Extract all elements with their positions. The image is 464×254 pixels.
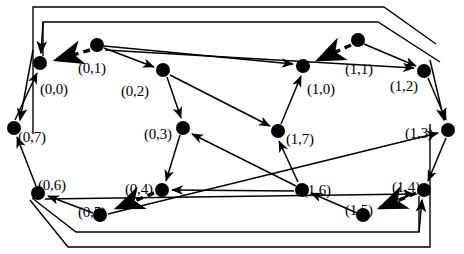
graph-node-label-1_5: (1,5) [345, 203, 373, 218]
graph-node-1_0[interactable] [296, 59, 310, 73]
edge-0-6-to-1-4 [45, 194, 414, 199]
graph-node-1_7[interactable] [271, 124, 285, 138]
graph-node-label-1_2: (1,2) [390, 79, 418, 94]
graph-node-0_2[interactable] [156, 63, 170, 77]
edge-1-6-to-0-3 [192, 134, 296, 186]
graph-node-label-1_4: (1,4) [392, 180, 420, 195]
graph-node-label-0_3: (0,3) [144, 127, 172, 142]
graph-node-0_0[interactable] [33, 56, 47, 70]
graph-node-label-0_0: (0,0) [40, 82, 68, 97]
edge-0-5-to-1-3 [108, 133, 438, 214]
edge-0-2-to-0-3 [167, 77, 181, 118]
outer-path-right-bottom [30, 124, 430, 247]
graph-node-1_1[interactable] [351, 33, 365, 47]
edge-layer [15, 22, 446, 232]
graph-node-0_4[interactable] [155, 183, 169, 197]
graph-node-1_2[interactable] [417, 64, 431, 78]
graph-node-0_1[interactable] [90, 38, 104, 52]
graph-node-label-1_1: (1,1) [345, 62, 373, 77]
graph-node-label-1_7: (1,7) [286, 132, 314, 147]
graph-node-label-0_7: (0,7) [18, 130, 46, 145]
edge-0-1-to-0-0-dashed [56, 50, 90, 60]
edge-1-7-to-1-0 [281, 76, 301, 124]
graph-node-label-1_0: (1,0) [307, 82, 335, 97]
edge-1-4-to-1-5-dashed [380, 193, 416, 208]
graph-node-label-0_1: (0,1) [78, 61, 106, 76]
edge-1-6-to-1-7 [279, 141, 298, 182]
edge-0-2-to-1-7 [170, 75, 270, 126]
graph-node-label-0_6: (0,6) [38, 178, 66, 193]
graph-node-label-0_5: (0,5) [78, 205, 106, 220]
graph-node-0_3[interactable] [176, 121, 190, 135]
edge-1-2-to-1-3 [428, 78, 446, 120]
graph-figure: (0,0)(0,1)(0,2)(0,3)(0,4)(0,5)(0,6)(0,7)… [0, 0, 464, 254]
graph-node-1_3[interactable] [441, 123, 455, 137]
graph-canvas [0, 0, 464, 254]
edge-1-1-to-1-0-dashed [318, 45, 351, 60]
graph-node-label-0_2: (0,2) [121, 84, 149, 99]
graph-node-label-1_6: (1,6) [303, 183, 331, 198]
graph-node-label-1_3: (1,3) [405, 126, 433, 141]
graph-node-label-0_4: (0,4) [125, 182, 153, 197]
edge-1-6-to-0-4 [172, 190, 294, 191]
